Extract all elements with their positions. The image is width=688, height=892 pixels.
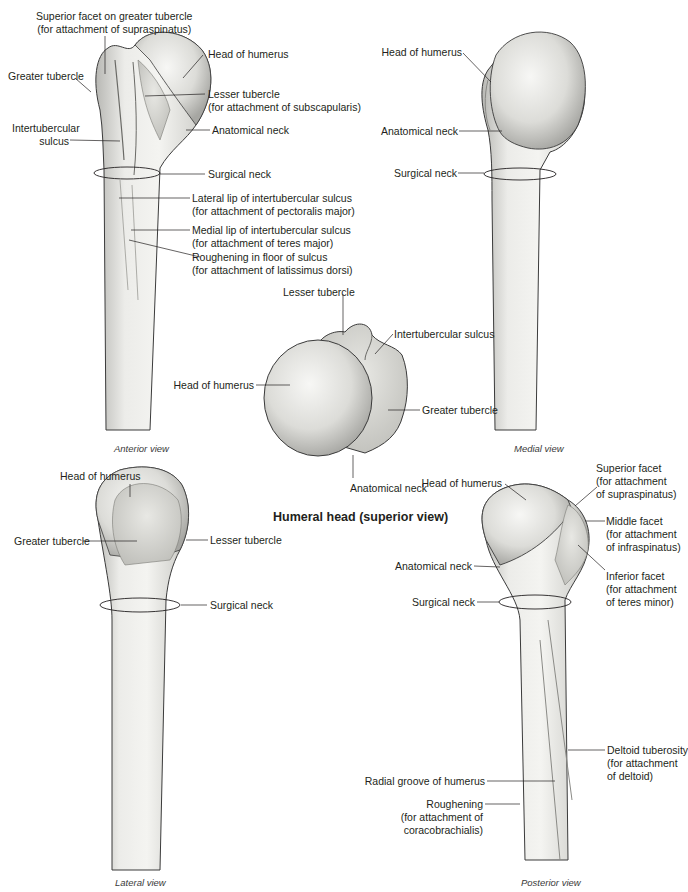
label-line: (for attachment: [606, 528, 681, 541]
label-line: Medial lip of intertubercular sulcus: [192, 224, 351, 237]
label-lateral-surgical-neck: Surgical neck: [210, 599, 273, 612]
superior-view-title: Humeral head (superior view): [273, 510, 448, 524]
label-line: (for attachment: [606, 583, 677, 596]
label-line: Superior facet on greater tubercle: [36, 10, 192, 23]
posterior-view-bone: [482, 484, 589, 860]
label-posterior-middle-facet: Middle facet (for attachment of infraspi…: [606, 515, 681, 554]
label-posterior-superior-facet: Superior facet (for attachment of supras…: [596, 462, 677, 501]
label-line: of supraspinatus): [596, 488, 677, 501]
label-anterior-greater-tubercle: Greater tubercle: [8, 70, 84, 83]
label-anterior-surgical-neck: Surgical neck: [208, 168, 271, 181]
label-line: (for attachment of supraspinatus): [36, 23, 192, 36]
label-anterior-head: Head of humerus: [208, 48, 289, 61]
label-line: of teres minor): [606, 596, 677, 609]
label-medial-head: Head of humerus: [380, 46, 462, 59]
label-anterior-superior-facet: Superior facet on greater tubercle (for …: [36, 10, 192, 36]
label-lateral-head: Head of humerus: [60, 470, 141, 483]
label-anterior-medial-lip: Medial lip of intertubercular sulcus (fo…: [192, 224, 351, 250]
label-lateral-lesser-tubercle: Lesser tubercle: [210, 534, 282, 547]
medial-view-bone: [482, 32, 585, 430]
label-anterior-roughening: Roughening in floor of sulcus (for attac…: [192, 251, 352, 277]
label-line: Roughening in floor of sulcus: [192, 251, 352, 264]
label-anterior-lesser-tubercle: Lesser tubercle (for attachment of subsc…: [208, 88, 361, 114]
label-line: sulcus: [12, 135, 69, 148]
label-anterior-anatomical-neck: Anatomical neck: [212, 124, 289, 137]
label-lateral-greater-tubercle: Greater tubercle: [14, 535, 90, 548]
caption-posterior-view: Posterior view: [521, 877, 581, 888]
label-line: (for attachment of pectoralis major): [192, 205, 355, 218]
label-line: Roughening: [375, 798, 483, 811]
label-line: coracobrachialis): [375, 824, 483, 837]
label-medial-anatomical-neck: Anatomical neck: [370, 125, 458, 138]
label-superior-greater-tubercle: Greater tubercle: [422, 404, 498, 417]
label-line: Middle facet: [606, 515, 681, 528]
label-line: Inferior facet: [606, 570, 677, 583]
label-line: (for attachment of teres major): [192, 237, 351, 250]
label-line: (for attachment: [596, 475, 677, 488]
label-line: Lateral lip of intertubercular sulcus: [192, 192, 355, 205]
label-line: (for attachment of latissimus dorsi): [192, 264, 352, 277]
label-medial-surgical-neck: Surgical neck: [380, 167, 457, 180]
label-line: (for attachment of: [375, 811, 483, 824]
label-superior-intertubercular-sulcus: Intertubercular sulcus: [394, 328, 494, 341]
label-superior-head: Head of humerus: [168, 379, 254, 392]
label-posterior-head: Head of humerus: [420, 477, 502, 490]
caption-lateral-view: Lateral view: [115, 877, 166, 888]
lateral-view-bone: [96, 467, 189, 870]
label-anterior-lateral-lip: Lateral lip of intertubercular sulcus (f…: [192, 192, 355, 218]
superior-view-bone: [264, 324, 407, 456]
label-line: (for attachment of subscapularis): [208, 101, 361, 114]
label-posterior-radial-groove: Radial groove of humerus: [355, 775, 485, 788]
label-posterior-deltoid-tuberosity: Deltoid tuberosity (for attachment of de…: [607, 744, 688, 783]
label-line: Lesser tubercle: [208, 88, 361, 101]
label-posterior-surgical-neck: Surgical neck: [395, 596, 475, 609]
label-superior-anatomical-neck: Anatomical neck: [350, 482, 427, 495]
label-line: Superior facet: [596, 462, 677, 475]
label-line: of deltoid): [607, 770, 688, 783]
label-posterior-roughening: Roughening (for attachment of coracobrac…: [375, 798, 483, 837]
label-line: (for attachment: [607, 757, 688, 770]
label-posterior-inferior-facet: Inferior facet (for attachment of teres …: [606, 570, 677, 609]
label-anterior-intertubercular-sulcus: Intertubercular sulcus: [12, 122, 69, 148]
caption-anterior-view: Anterior view: [114, 443, 169, 454]
label-posterior-anatomical-neck: Anatomical neck: [380, 560, 472, 573]
caption-medial-view: Medial view: [514, 443, 564, 454]
label-line: of infraspinatus): [606, 541, 681, 554]
label-line: Intertubercular: [12, 122, 69, 135]
label-line: Deltoid tuberosity: [607, 744, 688, 757]
label-superior-lesser-tubercle: Lesser tubercle: [283, 286, 355, 299]
